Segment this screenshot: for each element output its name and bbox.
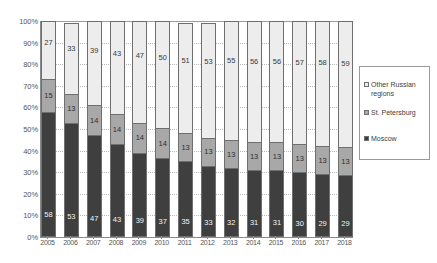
bar-segment-spb[interactable]: 13 [224, 140, 239, 168]
bar-segment-spb[interactable]: 13 [247, 142, 262, 170]
bar-segment-spb[interactable]: 13 [178, 133, 193, 161]
bar-segment-value-label: 14 [113, 126, 121, 134]
bar-column[interactable]: 561331 [247, 21, 262, 237]
bar-segment-msk[interactable]: 30 [292, 172, 307, 237]
bar-segment-msk[interactable]: 32 [224, 168, 239, 237]
x-axis-tick-label: 2011 [177, 239, 192, 246]
bar-segment-other[interactable]: 50 [155, 21, 170, 128]
bar-segment-other[interactable]: 55 [224, 21, 239, 140]
bar-segment-msk[interactable]: 29 [338, 175, 353, 237]
x-axis-tick-label: 2017 [314, 239, 329, 246]
y-axis-tick-label: 70% [4, 81, 38, 90]
bar-segment-spb[interactable]: 13 [338, 147, 353, 175]
bar-column[interactable]: 501437 [155, 21, 170, 237]
bar-segment-value-label: 29 [341, 220, 349, 228]
bar-segment-spb[interactable]: 13 [315, 146, 330, 174]
bar-segment-msk[interactable]: 53 [64, 123, 79, 237]
bar-column[interactable]: 391447 [87, 21, 102, 237]
bar-segment-other[interactable]: 58 [315, 21, 330, 146]
legend-item[interactable]: Moscow [364, 135, 429, 144]
y-axis-tick-label: 10% [4, 211, 38, 220]
x-axis-tick-label: 2015 [268, 239, 283, 246]
x-axis-tick-label: 2014 [246, 239, 261, 246]
bar-segment-msk[interactable]: 35 [178, 161, 193, 237]
bar-segment-value-label: 56 [250, 58, 258, 66]
bar-segment-spb[interactable]: 14 [110, 114, 125, 144]
bar-segment-msk[interactable]: 31 [269, 170, 284, 237]
legend-swatch-other-russian-regions-icon [364, 82, 369, 87]
bar-segment-other[interactable]: 57 [292, 21, 307, 144]
bar-segment-value-label: 39 [136, 217, 144, 225]
bar-series-group: 2715583313533914474314434714395014375113… [41, 21, 353, 237]
legend-item-label: St. Petersburg [371, 109, 416, 118]
plot-area: 2715583313533914474314434714395014375113… [40, 21, 353, 238]
bar-segment-msk[interactable]: 43 [110, 144, 125, 237]
bar-column[interactable]: 561331 [269, 21, 284, 237]
bar-segment-value-label: 33 [204, 219, 212, 227]
x-axis-tick-mark [161, 236, 162, 239]
bar-segment-other[interactable]: 56 [247, 21, 262, 142]
bar-segment-value-label: 33 [67, 45, 75, 53]
bar-segment-other[interactable]: 27 [41, 21, 56, 79]
bar-segment-other[interactable]: 53 [201, 23, 216, 137]
bar-segment-value-label: 14 [136, 134, 144, 142]
bar-column[interactable]: 571330 [292, 21, 307, 237]
bar-column[interactable]: 581329 [315, 21, 330, 237]
x-axis-tick-label: 2016 [291, 239, 306, 246]
bar-segment-msk[interactable]: 29 [315, 174, 330, 237]
bar-segment-value-label: 47 [90, 215, 98, 223]
bar-segment-msk[interactable]: 39 [132, 153, 147, 237]
bar-column[interactable]: 591329 [338, 21, 353, 237]
bar-column[interactable]: 471439 [132, 21, 147, 237]
bar-segment-msk[interactable]: 58 [41, 112, 56, 237]
bar-segment-msk[interactable]: 33 [201, 166, 216, 237]
bar-column[interactable]: 331353 [64, 21, 79, 237]
bar-segment-msk[interactable]: 47 [87, 135, 102, 237]
bar-segment-value-label: 37 [159, 218, 167, 226]
x-axis-tick-mark [344, 236, 345, 239]
bar-segment-value-label: 35 [181, 218, 189, 226]
bar-segment-value-label: 14 [90, 117, 98, 125]
y-axis-tick-label: 60% [4, 103, 38, 112]
bar-segment-spb[interactable]: 15 [41, 79, 56, 111]
x-axis: 2005200620072008200920102011201220132014… [40, 239, 352, 253]
bar-column[interactable]: 551332 [224, 21, 239, 237]
bar-column[interactable]: 431443 [110, 21, 125, 237]
bar-segment-spb[interactable]: 13 [201, 138, 216, 166]
bar-segment-other[interactable]: 59 [338, 21, 353, 147]
x-axis-tick-mark [275, 236, 276, 239]
bar-segment-value-label: 58 [318, 59, 326, 67]
bar-column[interactable]: 511335 [178, 21, 193, 237]
legend-item[interactable]: St. Petersburg [364, 109, 429, 118]
x-axis-tick-label: 2005 [40, 239, 55, 246]
bar-segment-other[interactable]: 39 [87, 21, 102, 105]
legend-item-label: Moscow [371, 135, 397, 144]
bar-segment-spb[interactable]: 14 [87, 105, 102, 135]
bar-segment-other[interactable]: 56 [269, 21, 284, 142]
bar-segment-value-label: 27 [44, 39, 52, 47]
bar-segment-other[interactable]: 51 [178, 23, 193, 133]
x-axis-tick-label: 2012 [200, 239, 215, 246]
bar-segment-spb[interactable]: 14 [155, 128, 170, 158]
bar-segment-value-label: 13 [273, 153, 281, 161]
legend-item-label: Other Russian regions [371, 81, 429, 98]
bar-segment-other[interactable]: 33 [64, 23, 79, 94]
bar-segment-other[interactable]: 43 [110, 21, 125, 114]
bar-segment-msk[interactable]: 37 [155, 158, 170, 237]
y-axis-tick-label: 0% [4, 233, 38, 242]
x-axis-tick-mark [93, 236, 94, 239]
x-axis-tick-label: 2006 [63, 239, 78, 246]
bar-segment-spb[interactable]: 14 [132, 123, 147, 153]
bar-segment-spb[interactable]: 13 [292, 144, 307, 172]
bar-segment-msk[interactable]: 31 [247, 170, 262, 237]
bar-segment-spb[interactable]: 13 [64, 94, 79, 122]
x-axis-tick-mark [253, 236, 254, 239]
bar-column[interactable]: 531333 [201, 21, 216, 237]
legend-item[interactable]: Other Russian regions [364, 81, 429, 98]
bar-segment-spb[interactable]: 13 [269, 142, 284, 170]
bar-segment-value-label: 14 [159, 140, 167, 148]
y-axis-tick-label: 40% [4, 146, 38, 155]
bar-segment-other[interactable]: 47 [132, 21, 147, 123]
bar-column[interactable]: 271558 [41, 21, 56, 237]
bar-segment-value-label: 32 [227, 219, 235, 227]
